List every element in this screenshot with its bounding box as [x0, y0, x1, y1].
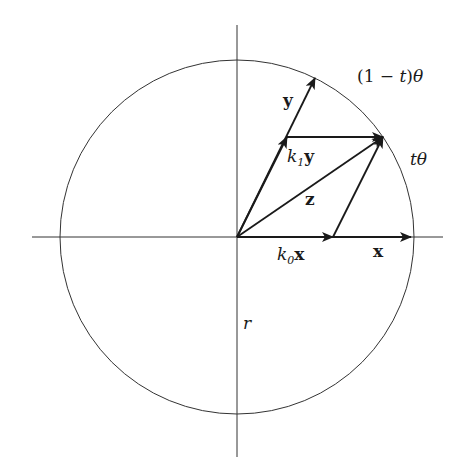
label-k1y: k1y — [287, 146, 315, 169]
label-one-minus-t-theta: (1 − t)θ — [357, 66, 423, 86]
label-r: r — [243, 313, 252, 333]
label-t-theta: tθ — [410, 149, 427, 169]
label-z: z — [305, 189, 315, 209]
parallelogram-right-edge — [333, 137, 383, 237]
diagram-canvas: y k1y z k0x x (1 − t)θ tθ r — [0, 0, 475, 468]
label-y: y — [282, 90, 294, 110]
label-x: x — [373, 241, 384, 261]
vector-k1y — [237, 137, 287, 237]
label-k0x: k0x — [277, 244, 305, 267]
circle-vector-diagram: y k1y z k0x x (1 − t)θ tθ r — [0, 0, 475, 468]
